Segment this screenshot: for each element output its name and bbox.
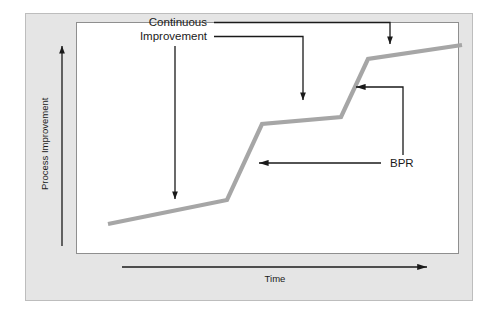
bpr-label: BPR bbox=[390, 157, 414, 169]
x-axis-label: Time bbox=[265, 273, 286, 284]
continuous-improvement-label-line2: Improvement bbox=[140, 30, 208, 42]
y-axis-label: Process Improvement bbox=[39, 97, 50, 190]
diagram-root: Process Improvement Time Continuous Impr… bbox=[0, 0, 498, 313]
continuous-improvement-label-line1: Continuous bbox=[149, 16, 207, 28]
process-improvement-diagram: Process Improvement Time Continuous Impr… bbox=[0, 0, 498, 313]
